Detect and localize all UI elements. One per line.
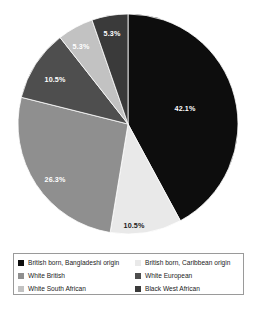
legend-item: British born, Bangladeshi origin [18,257,135,269]
pie-chart-plot-area: 42.1%10.5%26.3%10.5%5.3%5.3% [0,2,258,246]
legend-swatch-icon [18,286,24,292]
pie-chart-svg: 42.1%10.5%26.3%10.5%5.3%5.3% [0,2,258,246]
legend-item: White European [135,270,241,282]
pie-slice-value-label: 26.3% [45,175,66,184]
legend-item-label: British born, Bangladeshi origin [28,259,119,267]
legend-swatch-icon [18,273,24,279]
legend-swatch-icon [135,273,141,279]
legend-item-label: White European [145,272,192,280]
pie-slice-value-label: 5.3% [104,29,121,38]
pie-slice-value-label: 10.5% [124,221,145,230]
legend-item-label: Black West African [145,285,200,293]
chart-legend: British born, Bangladeshi originBritish … [13,253,244,295]
pie-chart-figure: 42.1%10.5%26.3%10.5%5.3%5.3% British bor… [0,0,258,310]
legend-swatch-icon [135,260,141,266]
pie-slice-value-label: 5.3% [73,42,90,51]
legend-item-label: White South African [28,285,86,293]
legend-swatch-icon [18,260,24,266]
legend-item: Black West African [135,283,241,295]
legend-grid: British born, Bangladeshi originBritish … [18,257,241,296]
pie-slice-value-label: 10.5% [45,75,66,84]
legend-item: British born, Caribbean origin [135,257,241,269]
legend-item-label: White British [28,272,65,280]
pie-slice-value-label: 42.1% [175,104,196,113]
pie-slice-group [18,14,238,234]
legend-item: White South African [18,283,135,295]
legend-item: White British [18,270,135,282]
legend-swatch-icon [135,286,141,292]
legend-item-label: British born, Caribbean origin [145,259,230,267]
